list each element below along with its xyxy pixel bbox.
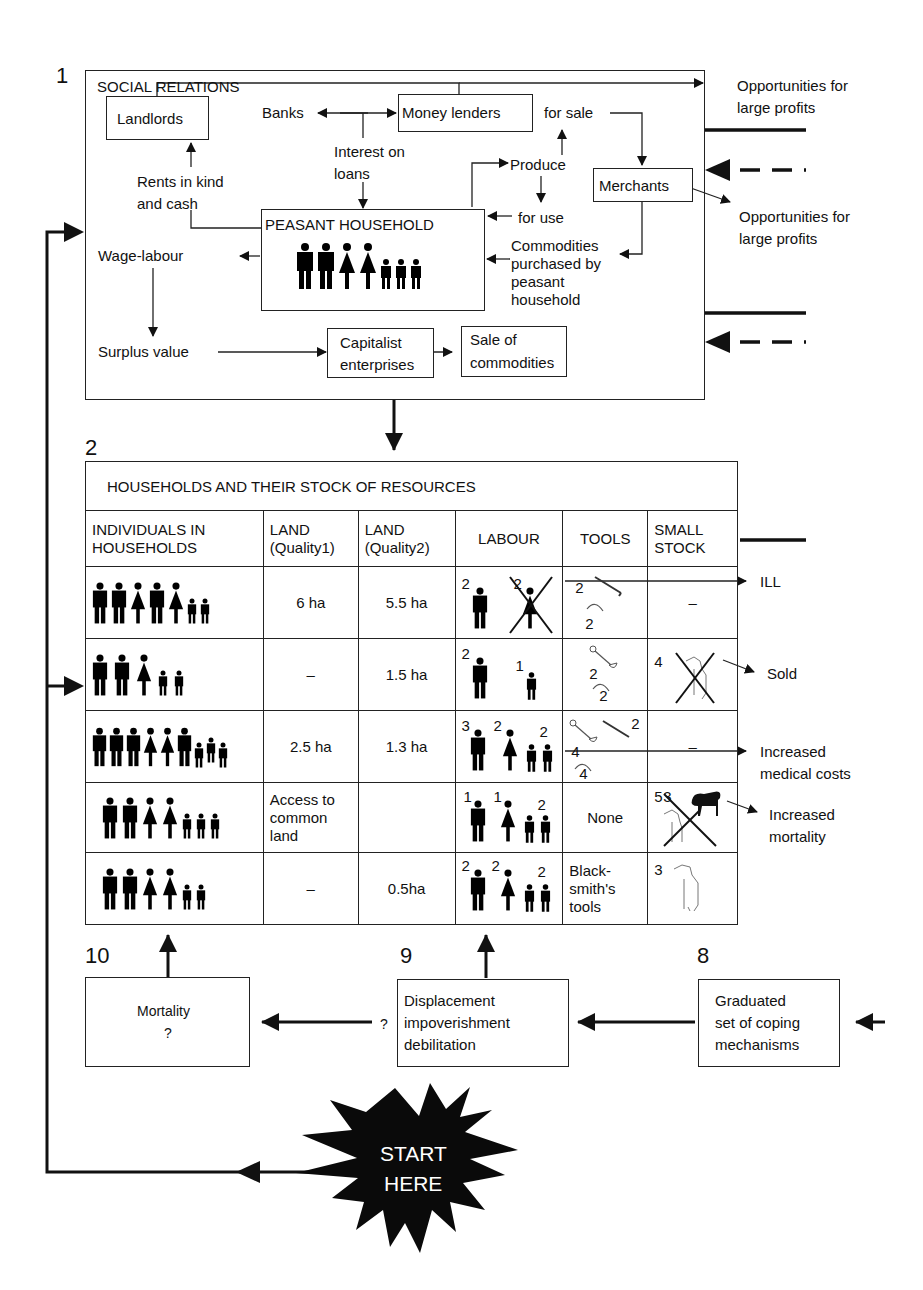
woman-icon (502, 727, 518, 773)
surplus-value-label: Surplus value (98, 343, 189, 361)
child-icon (380, 259, 392, 289)
woman-icon (162, 866, 178, 912)
hoe-icon (601, 719, 635, 741)
individuals-cell (86, 567, 264, 639)
child-icon (182, 882, 192, 912)
opportunities-2-line1: Opportunities for (739, 208, 850, 226)
child-icon (200, 596, 210, 626)
man-icon (149, 580, 165, 626)
tools-hoe-count: 2 (575, 579, 583, 597)
land-q1-cell: – (263, 639, 358, 711)
woman-icon (500, 798, 516, 844)
col-header-individuals: INDIVIDUALS INHOUSEHOLDS (86, 511, 264, 567)
man-icon (296, 243, 314, 289)
man-icon (470, 798, 486, 844)
child-icon (524, 883, 535, 913)
man-icon (470, 727, 486, 773)
money-lenders-label: Money lenders (402, 104, 500, 122)
land-q1-cell: – (263, 853, 358, 925)
small-stock-cell: – (648, 567, 738, 639)
tools-cell: 2 4 4 (563, 711, 648, 783)
opportunities-2-line2: large profits (739, 230, 817, 248)
woman-icon (160, 724, 175, 770)
section-number-2: 2 (85, 436, 97, 460)
banks-label: Banks (262, 104, 304, 122)
land-q2-cell (358, 783, 455, 853)
outcome-sold: Sold (767, 665, 797, 683)
peasant-household-label: PEASANT HOUSEHOLD (265, 216, 434, 234)
goat-icon (672, 649, 718, 705)
produce-label: Produce (510, 156, 566, 174)
hoe-icon (591, 575, 625, 597)
man-icon (111, 580, 127, 626)
child-icon (526, 743, 537, 773)
individuals-cell (86, 639, 264, 711)
small-stock-cell: 3 (648, 853, 738, 925)
woman-icon (130, 580, 146, 626)
man-icon (472, 655, 488, 701)
social-relations-title: SOCIAL RELATIONS (97, 78, 240, 96)
cross-out-icon (660, 792, 720, 848)
sale-label-2: commodities (470, 354, 554, 372)
child-icon (542, 743, 553, 773)
child-icon (158, 668, 168, 698)
woman-icon (338, 243, 356, 289)
table-row: – 1.5 ha 2 1 2 2 4 (86, 639, 738, 711)
child-icon (540, 883, 551, 913)
tools-cell: 2 2 (563, 639, 648, 711)
labour-cell: 1 1 2 (455, 783, 563, 853)
child-icon (174, 668, 184, 698)
woman-icon (162, 795, 178, 841)
man-icon (114, 652, 130, 698)
commodities-label-4: household (511, 291, 580, 309)
start-starburst (296, 1083, 518, 1253)
tools-sickle-count: 2 (585, 615, 593, 633)
man-icon (109, 724, 124, 770)
coping-label-2: set of coping (715, 1014, 800, 1032)
displacement-label-1: Displacement (404, 992, 495, 1010)
land-q1-cell: 2.5 ha (263, 711, 358, 783)
individuals-cell (86, 853, 264, 925)
col-header-land-q2: LAND(Quality2) (358, 511, 455, 567)
table-row: – 0.5ha 2 2 2 Black- smith's tools 3 (86, 853, 738, 925)
man-icon (102, 866, 118, 912)
commodities-label-3: peasant (511, 273, 564, 291)
rents-label-2: and cash (137, 195, 198, 213)
man-icon (126, 724, 141, 770)
table-row: 6 ha 5.5 ha 2 2 2 2 – (86, 567, 738, 639)
outcome-mortality-2: mortality (769, 828, 826, 846)
labour-cell: 3 2 2 (455, 711, 563, 783)
wage-labour-label: Wage-labour (98, 247, 183, 265)
mortality-question: ? (164, 1024, 172, 1042)
labour-cell: 2 1 (455, 639, 563, 711)
land-q1-cell: Access to common land (263, 783, 358, 853)
outcome-ill: ILL (760, 573, 781, 591)
table-header-row: INDIVIDUALS INHOUSEHOLDS LAND(Quality1) … (86, 511, 738, 567)
man-icon (472, 585, 488, 631)
child-icon (210, 811, 220, 841)
land-q2-cell: 5.5 ha (358, 567, 455, 639)
labour-cell: 2 2 2 (455, 853, 563, 925)
individuals-cell (86, 783, 264, 853)
for-use-label: for use (518, 209, 564, 227)
goat-icon (670, 861, 704, 915)
for-sale-label: for sale (544, 104, 593, 122)
man-icon (122, 795, 138, 841)
cross-out-icon (508, 575, 554, 635)
start-here-line1[interactable]: START (380, 1142, 447, 1166)
child-icon (206, 730, 216, 770)
start-here-line2[interactable]: HERE (384, 1172, 442, 1196)
woman-icon (142, 866, 158, 912)
child-icon (187, 596, 197, 626)
section-number-8: 8 (697, 944, 709, 968)
displacement-label-3: debilitation (404, 1036, 476, 1054)
small-stock-cell: 4 (648, 639, 738, 711)
sale-label-1: Sale of (470, 331, 517, 349)
child-icon (524, 814, 535, 844)
rents-label-1: Rents in kind (137, 173, 224, 191)
capitalist-label-2: enterprises (340, 356, 414, 374)
child-icon (540, 814, 551, 844)
man-icon (102, 795, 118, 841)
woman-icon (142, 795, 158, 841)
woman-icon (359, 243, 377, 289)
